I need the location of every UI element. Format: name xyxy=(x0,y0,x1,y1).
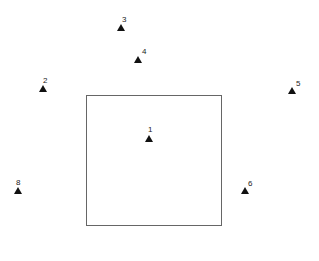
bounding-rectangle xyxy=(86,95,222,226)
point-label: 8 xyxy=(16,179,20,187)
point-label: 1 xyxy=(148,126,152,134)
triangle-up-icon xyxy=(288,87,296,94)
point-label: 2 xyxy=(43,77,47,85)
point-label: 4 xyxy=(142,48,146,56)
triangle-up-icon xyxy=(117,24,125,31)
point-label: 3 xyxy=(122,16,126,24)
triangle-up-icon xyxy=(14,187,22,194)
triangle-up-icon xyxy=(39,85,47,92)
point-label: 5 xyxy=(296,80,300,88)
triangle-up-icon xyxy=(241,187,249,194)
triangle-up-icon xyxy=(134,56,142,63)
point-label: 6 xyxy=(248,180,252,188)
triangle-up-icon xyxy=(145,135,153,142)
